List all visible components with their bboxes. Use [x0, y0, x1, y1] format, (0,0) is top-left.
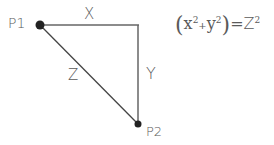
eq-x: x: [184, 14, 193, 33]
point-p1-label: P1: [8, 16, 25, 30]
eq-y: y: [207, 14, 216, 33]
eq-z: Z: [244, 14, 255, 33]
edge-y-label: Y: [146, 66, 156, 82]
point-p1-dot: [36, 21, 45, 30]
edge-z-label: Z: [68, 68, 78, 83]
point-p2-dot: [135, 121, 142, 128]
edge-x-label: X: [84, 7, 94, 22]
pythagorean-equation: (x2+y2)=Z2: [175, 12, 260, 37]
point-p2-label: P2: [146, 125, 162, 138]
edge-z: [40, 25, 138, 124]
